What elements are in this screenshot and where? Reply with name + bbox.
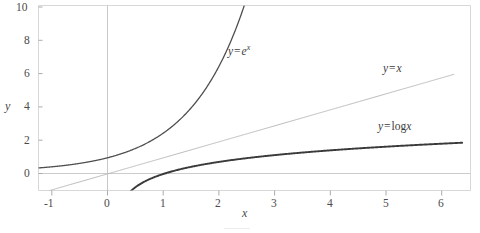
annotation-identity: y=x	[383, 62, 402, 74]
caption-rule	[224, 228, 250, 229]
annotation-exponential-exponent: x	[247, 43, 251, 52]
y-tick-label-0: 0	[24, 167, 30, 179]
x-tick-label--1: -1	[44, 197, 54, 209]
figure-caption	[0, 221, 480, 233]
x-tick-label-3: 3	[271, 197, 277, 209]
x-axis-title: x	[242, 206, 247, 221]
x-tick-label-1: 1	[160, 197, 166, 209]
y-axis-title: y	[5, 99, 10, 114]
curve-path	[127, 143, 462, 195]
annotation-exponential-eq: =	[233, 45, 242, 57]
y-tick-label-10: 10	[16, 1, 28, 13]
x-tick-label-6: 6	[438, 197, 444, 209]
plot-frame	[39, 6, 471, 191]
annotation-logarithm-eq: =	[383, 120, 392, 132]
y-tick-label-4: 4	[24, 100, 30, 112]
y-tick-label-6: 6	[24, 67, 30, 79]
x-tick-label-2: 2	[215, 197, 221, 209]
y-tick-marks	[39, 7, 43, 174]
y-tick-label-8: 8	[24, 34, 30, 46]
y-tick-label-2: 2	[24, 134, 30, 146]
annotation-logarithm-log: log	[392, 120, 407, 132]
plot-canvas	[0, 0, 480, 233]
annotation-logarithm: y=logx	[378, 120, 411, 132]
annotation-exponential: y=ex	[228, 43, 250, 57]
series-y-log-x	[127, 143, 462, 195]
x-tick-marks	[52, 191, 442, 196]
x-tick-label-5: 5	[383, 197, 389, 209]
x-tick-label-4: 4	[327, 197, 333, 209]
annotation-identity-eq: =	[388, 62, 397, 74]
x-tick-label-0: 0	[104, 197, 110, 209]
annotation-identity-x: x	[397, 62, 402, 74]
annotation-logarithm-arg: x	[406, 120, 411, 132]
figure-container: 10 8 6 4 2 0 y -1 0 1 2 3 4 5 6 x y=ex y…	[0, 0, 480, 233]
